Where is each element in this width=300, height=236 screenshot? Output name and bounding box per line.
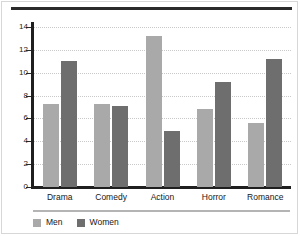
y-axis-tick-label: 4 [8, 137, 28, 145]
legend-item-women[interactable]: Women [77, 218, 119, 227]
legend-item-men[interactable]: Men [33, 218, 63, 227]
x-axis-category-label: Romance [240, 192, 291, 202]
bar-action-women [164, 131, 180, 187]
legend-label: Women [90, 218, 119, 227]
bar-horror-men [197, 109, 213, 187]
legend-label: Men [46, 218, 63, 227]
chart-figure: 02468101214 DramaComedyActionHorrorRoman… [0, 0, 300, 236]
y-axis-tick-label: 14 [8, 23, 28, 31]
y-axis-tick-label: 8 [8, 92, 28, 100]
chart-legend: MenWomen [33, 218, 119, 227]
bar-action-men [146, 36, 162, 187]
x-axis-category-label: Horror [188, 192, 239, 202]
plot-wrapper: 02468101214 DramaComedyActionHorrorRoman… [0, 0, 300, 236]
y-axis-tick-label: 6 [8, 114, 28, 122]
bar-comedy-women [112, 106, 128, 187]
bar-romance-men [248, 123, 264, 187]
legend-swatch-icon [77, 219, 85, 227]
y-axis-tick-label: 2 [8, 160, 28, 168]
bar-drama-women [61, 61, 77, 187]
bar-group [34, 27, 291, 187]
x-axis-category-label: Drama [34, 192, 85, 202]
y-axis-tick-label: 12 [8, 46, 28, 54]
x-axis-category-label: Action [137, 192, 188, 202]
y-axis-tick-label: 0 [8, 183, 28, 191]
legend-swatch-icon [33, 219, 41, 227]
legend-divider [33, 210, 290, 212]
bar-comedy-men [94, 104, 110, 187]
bar-romance-women [266, 59, 282, 187]
y-axis-tick-label: 10 [8, 69, 28, 77]
bar-horror-women [215, 82, 231, 187]
bar-drama-men [43, 104, 59, 187]
x-axis-category-label: Comedy [85, 192, 136, 202]
